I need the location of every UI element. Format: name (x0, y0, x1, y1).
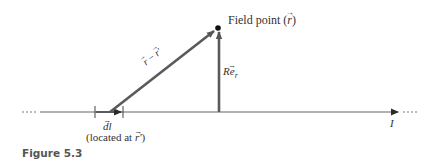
field-point-dot (215, 25, 221, 31)
located-r-prime-vector: r′ (135, 132, 142, 143)
left-dots (22, 111, 36, 113)
displacement-vector-arrow (110, 31, 214, 112)
right-dots (403, 111, 417, 113)
e-vector: e (230, 66, 235, 77)
located-open: (located at (86, 131, 135, 143)
located-close: ) (142, 131, 146, 143)
field-point-vector: r (287, 14, 292, 26)
r-subscript: r (235, 71, 238, 80)
field-point-var: r (287, 13, 292, 27)
magnetic-field-diagram (0, 0, 440, 162)
radial-vector-label: Rer (223, 66, 238, 80)
e-var: e (230, 65, 235, 77)
figure-caption: Figure 5.3 (22, 147, 82, 159)
located-var: r′ (135, 131, 142, 143)
field-point-label: Field point (r) (228, 14, 296, 26)
current-label: I (390, 118, 394, 129)
located-at-label: (located at r′) (86, 132, 145, 143)
field-point-text: Field point ( (228, 13, 287, 27)
